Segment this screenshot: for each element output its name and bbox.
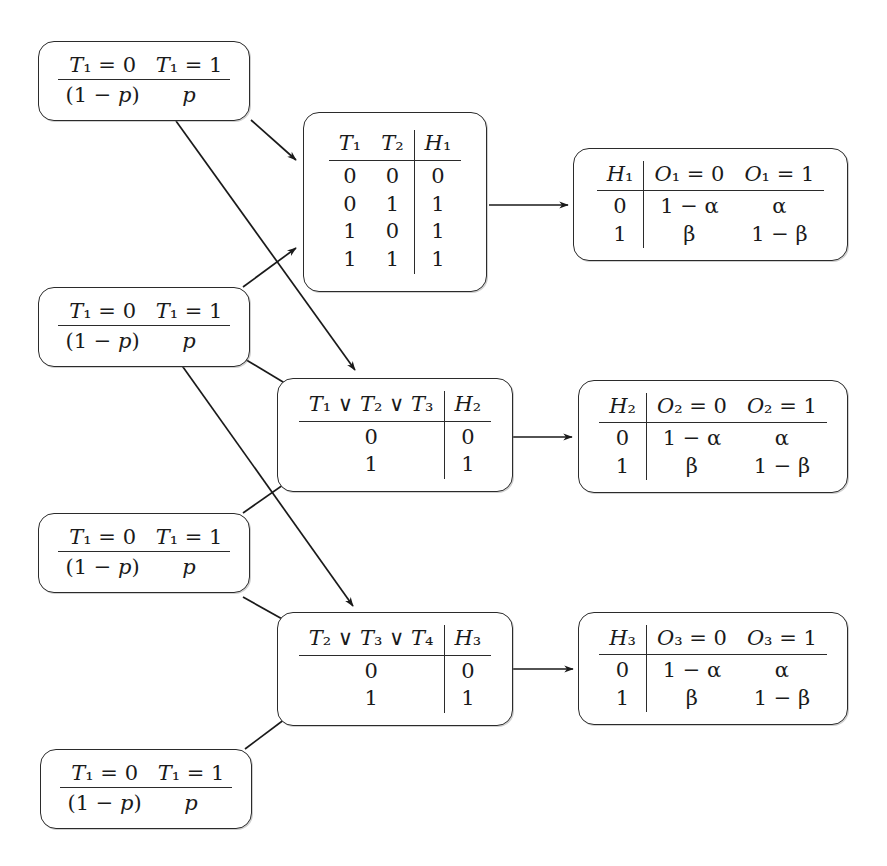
o2-header-2: O₂ = 1 bbox=[737, 393, 827, 423]
prior-node-1[interactable]: T₁ = 0 T₁ = 1 (1 − p) p bbox=[38, 41, 250, 121]
h1-header-0: T₁ bbox=[329, 130, 371, 160]
table-row: 1 β 1 − β bbox=[597, 221, 825, 249]
prior-2-value-0: (1 − p) bbox=[58, 326, 148, 355]
o2-cell-1-0: 1 bbox=[599, 453, 646, 481]
o1-node[interactable]: H₁ O₁ = 0 O₁ = 1 0 1 − α α 1 β 1 − β bbox=[573, 148, 848, 261]
o2-cell-1-2: 1 − β bbox=[737, 453, 827, 481]
h2-cell-1-1: 1 bbox=[444, 451, 491, 479]
table-row: 0 1 1 bbox=[329, 191, 462, 219]
table-row: 0 1 − α α bbox=[599, 423, 827, 453]
table-row: 1 1 bbox=[299, 685, 492, 713]
prior-3-header-0: T₁ = 0 bbox=[58, 525, 148, 551]
edge-prior2-h1 bbox=[243, 248, 296, 287]
table-row: 0 0 bbox=[299, 421, 492, 451]
o1-cell-1-2: 1 − β bbox=[734, 221, 824, 249]
prior-table-1: T₁ = 0 T₁ = 1 (1 − p) p bbox=[58, 53, 231, 108]
h1-cell-3-2: 1 bbox=[414, 246, 461, 274]
o2-cell-0-0: 0 bbox=[599, 423, 646, 453]
prior-node-4[interactable]: T₁ = 0 T₁ = 1 (1 − p) p bbox=[40, 749, 252, 829]
h1-node[interactable]: T₁ T₂ H₁ 0 0 0 0 1 1 1 0 bbox=[303, 112, 487, 292]
h1-cpt-table: T₁ T₂ H₁ 0 0 0 0 1 1 1 0 bbox=[329, 130, 462, 273]
table-row: 0 1 − α α bbox=[597, 191, 825, 221]
o2-cell-1-1: β bbox=[646, 453, 736, 481]
h1-header-1: T₂ bbox=[371, 130, 414, 160]
h1-cell-0-1: 0 bbox=[371, 161, 414, 191]
prior-3-value-0: (1 − p) bbox=[58, 552, 148, 581]
h3-cell-0-1: 0 bbox=[444, 655, 491, 685]
h2-cell-1-0: 1 bbox=[299, 451, 444, 479]
o3-cell-1-2: 1 − β bbox=[737, 685, 827, 713]
o3-header-0: H₃ bbox=[599, 625, 646, 655]
o1-cell-1-0: 1 bbox=[597, 221, 644, 249]
h3-cell-0-0: 0 bbox=[299, 655, 444, 685]
h2-header-1: H₂ bbox=[444, 391, 491, 421]
h2-node[interactable]: T₁ ∨ T₂ ∨ T₃ H₂ 0 0 1 1 bbox=[277, 378, 513, 492]
prior-4-header-0: T₁ = 0 bbox=[60, 761, 150, 787]
o2-cpt-table: H₂ O₂ = 0 O₂ = 1 0 1 − α α 1 β 1 − β bbox=[599, 393, 827, 481]
o3-cell-0-1: 1 − α bbox=[646, 655, 736, 685]
o2-cell-0-1: 1 − α bbox=[646, 423, 736, 453]
prior-1-header-1: T₁ = 1 bbox=[148, 53, 231, 79]
o1-cell-0-1: 1 − α bbox=[644, 191, 734, 221]
table-row: (1 − p) p bbox=[58, 80, 231, 109]
h2-header-0: T₁ ∨ T₂ ∨ T₃ bbox=[299, 391, 444, 421]
o3-header-1: O₃ = 0 bbox=[646, 625, 736, 655]
h1-cell-3-0: 1 bbox=[329, 246, 371, 274]
prior-3-value-1: p bbox=[148, 552, 231, 581]
prior-1-value-0: (1 − p) bbox=[58, 80, 148, 109]
h1-cell-0-2: 0 bbox=[414, 161, 461, 191]
table-row: 1 β 1 − β bbox=[599, 685, 827, 713]
table-row: 0 1 − α α bbox=[599, 655, 827, 685]
h3-cell-1-1: 1 bbox=[444, 685, 491, 713]
o1-header-1: O₁ = 0 bbox=[644, 161, 734, 191]
table-row: 1 1 1 bbox=[329, 246, 462, 274]
prior-2-header-0: T₁ = 0 bbox=[58, 299, 148, 325]
o3-cell-1-0: 1 bbox=[599, 685, 646, 713]
o1-header-2: O₁ = 1 bbox=[734, 161, 824, 191]
o3-node[interactable]: H₃ O₃ = 0 O₃ = 1 0 1 − α α 1 β 1 − β bbox=[578, 612, 848, 725]
diagram-canvas: T₁ = 0 T₁ = 1 (1 − p) p T₁ = 0 T₁ = 1 bbox=[0, 0, 887, 866]
table-row: (1 − p) p bbox=[58, 326, 231, 355]
table-row: (1 − p) p bbox=[58, 552, 231, 581]
prior-table-2: T₁ = 0 T₁ = 1 (1 − p) p bbox=[58, 299, 231, 354]
o1-header-0: H₁ bbox=[597, 161, 644, 191]
o3-cell-0-0: 0 bbox=[599, 655, 646, 685]
prior-table-3: T₁ = 0 T₁ = 1 (1 − p) p bbox=[58, 525, 231, 580]
prior-4-value-1: p bbox=[150, 788, 233, 817]
o1-cell-1-1: β bbox=[644, 221, 734, 249]
table-row: (1 − p) p bbox=[60, 788, 233, 817]
o2-node[interactable]: H₂ O₂ = 0 O₂ = 1 0 1 − α α 1 β 1 − β bbox=[578, 380, 848, 493]
o1-cell-0-2: α bbox=[734, 191, 824, 221]
prior-4-value-0: (1 − p) bbox=[60, 788, 150, 817]
table-row: 0 0 bbox=[299, 655, 492, 685]
h1-cell-2-1: 0 bbox=[371, 218, 414, 246]
prior-2-value-1: p bbox=[148, 326, 231, 355]
h3-node[interactable]: T₂ ∨ T₃ ∨ T₄ H₃ 0 0 1 1 bbox=[277, 612, 513, 726]
prior-2-header-1: T₁ = 1 bbox=[148, 299, 231, 325]
prior-3-header-1: T₁ = 1 bbox=[148, 525, 231, 551]
h2-cpt-table: T₁ ∨ T₂ ∨ T₃ H₂ 0 0 1 1 bbox=[299, 391, 492, 479]
h3-cell-1-0: 1 bbox=[299, 685, 444, 713]
h1-cell-0-0: 0 bbox=[329, 161, 371, 191]
o2-header-1: O₂ = 0 bbox=[646, 393, 736, 423]
o2-header-0: H₂ bbox=[599, 393, 646, 423]
h1-header-2: H₁ bbox=[414, 130, 461, 160]
h1-cell-1-0: 0 bbox=[329, 191, 371, 219]
h3-header-0: T₂ ∨ T₃ ∨ T₄ bbox=[299, 625, 444, 655]
o2-cell-0-2: α bbox=[737, 423, 827, 453]
h2-cell-0-0: 0 bbox=[299, 421, 444, 451]
h3-cpt-table: T₂ ∨ T₃ ∨ T₄ H₃ 0 0 1 1 bbox=[299, 625, 492, 713]
h1-cell-3-1: 1 bbox=[371, 246, 414, 274]
table-row: 0 0 0 bbox=[329, 161, 462, 191]
prior-node-2[interactable]: T₁ = 0 T₁ = 1 (1 − p) p bbox=[38, 287, 250, 367]
prior-table-4: T₁ = 0 T₁ = 1 (1 − p) p bbox=[60, 761, 233, 816]
prior-node-3[interactable]: T₁ = 0 T₁ = 1 (1 − p) p bbox=[38, 513, 250, 593]
table-row: 1 β 1 − β bbox=[599, 453, 827, 481]
o1-cpt-table: H₁ O₁ = 0 O₁ = 1 0 1 − α α 1 β 1 − β bbox=[597, 161, 825, 249]
o1-cell-0-0: 0 bbox=[597, 191, 644, 221]
h1-cell-2-2: 1 bbox=[414, 218, 461, 246]
prior-1-value-1: p bbox=[148, 80, 231, 109]
o3-cpt-table: H₃ O₃ = 0 O₃ = 1 0 1 − α α 1 β 1 − β bbox=[599, 625, 827, 713]
h1-cell-2-0: 1 bbox=[329, 218, 371, 246]
prior-1-header-0: T₁ = 0 bbox=[58, 53, 148, 79]
